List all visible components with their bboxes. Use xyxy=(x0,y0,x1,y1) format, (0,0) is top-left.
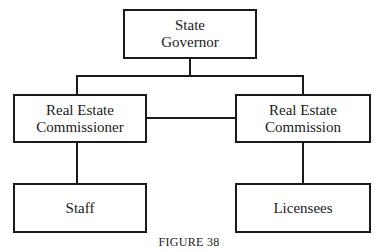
connector-commissioner-commission xyxy=(145,117,236,119)
figure-caption: FIGURE 38 xyxy=(0,235,378,250)
connector-left-down xyxy=(76,75,78,95)
connector-governor-down xyxy=(189,57,191,77)
node-label-line2: Governor xyxy=(161,34,218,51)
node-label: Licensees xyxy=(273,200,332,217)
node-staff: Staff xyxy=(13,183,147,233)
node-label-line1: State xyxy=(161,17,218,34)
node-label-line2: Commissioner xyxy=(36,119,124,136)
node-label-line1: Real Estate xyxy=(36,102,124,119)
node-real-estate-commission: Real Estate Commission xyxy=(235,94,371,143)
node-label: Staff xyxy=(66,200,95,217)
connector-horizontal-top xyxy=(76,75,304,77)
node-state-governor: State Governor xyxy=(123,9,257,59)
connector-commissioner-staff xyxy=(76,142,78,184)
connector-commission-licensees xyxy=(302,142,304,184)
node-label-line2: Commission xyxy=(265,119,341,136)
node-licensees: Licensees xyxy=(235,183,371,233)
node-real-estate-commissioner: Real Estate Commissioner xyxy=(13,94,147,143)
connector-right-down xyxy=(302,75,304,95)
node-label-line1: Real Estate xyxy=(265,102,341,119)
